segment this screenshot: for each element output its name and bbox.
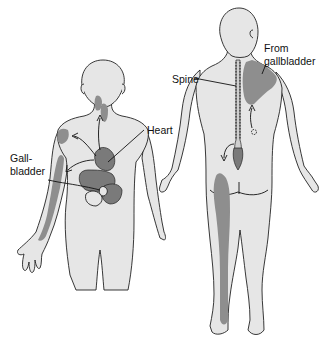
- front-ear: [122, 84, 125, 94]
- label-from-gallbladder-line2: gallbladder: [264, 55, 315, 67]
- label-spine: Spine: [172, 73, 199, 85]
- front-ear: [81, 84, 84, 94]
- gallbladder-organ: [99, 187, 107, 197]
- label-gallbladder-line1: Gall-: [10, 152, 32, 164]
- front-head: [82, 60, 125, 107]
- label-gallbladder-line2: bladder: [10, 165, 45, 177]
- label-heart: Heart: [147, 124, 173, 136]
- label-from-gallbladder-line1: From: [264, 42, 289, 54]
